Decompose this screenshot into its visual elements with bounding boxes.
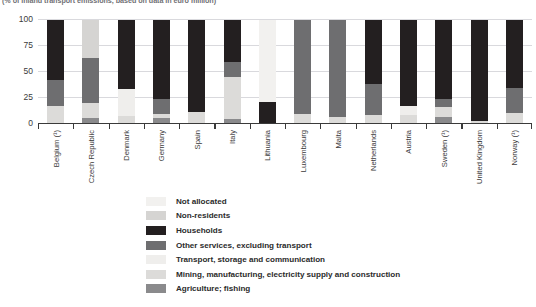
x-axis-tick bbox=[285, 124, 286, 129]
bar-segment bbox=[82, 20, 99, 58]
bar-segment bbox=[118, 20, 135, 89]
x-axis-tick bbox=[214, 124, 215, 129]
stacked-bar[interactable] bbox=[435, 20, 452, 124]
stacked-bar[interactable] bbox=[506, 20, 523, 124]
bar-segment bbox=[153, 20, 170, 99]
legend-item[interactable]: Transport, storage and communication bbox=[146, 252, 526, 267]
x-label-slot: Malta bbox=[320, 130, 355, 188]
bar-slot bbox=[356, 20, 391, 124]
x-axis-category-label: Spain bbox=[192, 130, 201, 149]
legend-label: Transport, storage and communication bbox=[176, 255, 325, 264]
stacked-bar[interactable] bbox=[188, 20, 205, 124]
legend-item[interactable]: Mining, manufacturing, electricity suppl… bbox=[146, 267, 526, 282]
stacked-bar[interactable] bbox=[365, 20, 382, 124]
x-axis-tick bbox=[426, 124, 427, 129]
chart-subtitle: (% of inland transport emissions, based … bbox=[2, 0, 216, 5]
bar-segment bbox=[294, 20, 311, 114]
x-axis-category-label: United Kingdom bbox=[475, 130, 484, 184]
legend-item[interactable]: Agriculture; fishing bbox=[146, 282, 526, 297]
bar-slot bbox=[461, 20, 496, 124]
stacked-bar[interactable] bbox=[82, 20, 99, 124]
x-axis-tick bbox=[531, 124, 532, 129]
bar-segment bbox=[365, 84, 382, 114]
x-axis-category-label: Malta bbox=[333, 130, 342, 149]
x-label-slot: Spain bbox=[179, 130, 214, 188]
bar-segment bbox=[153, 114, 170, 118]
stacked-bar[interactable] bbox=[224, 20, 241, 124]
x-tick-slot bbox=[214, 124, 249, 129]
stacked-bar[interactable] bbox=[259, 20, 276, 124]
legend-label: Not allocated bbox=[176, 197, 227, 206]
x-label-slot: United Kingdom bbox=[461, 130, 496, 188]
x-label-slot: Sweden (¹) bbox=[426, 130, 461, 188]
bar-group bbox=[38, 20, 532, 124]
bar-segment bbox=[82, 103, 99, 118]
plot-area: 0255075100 bbox=[38, 20, 532, 124]
legend-label: Other services, excluding transport bbox=[176, 241, 312, 250]
x-label-slot: Luxembourg bbox=[285, 130, 320, 188]
y-axis-tick-label: 50 bbox=[24, 66, 33, 76]
x-axis-tick bbox=[179, 124, 180, 129]
x-axis-tick bbox=[356, 124, 357, 129]
x-tick-slot bbox=[109, 124, 144, 129]
x-axis-category-label: Denmark bbox=[122, 130, 131, 161]
bar-segment bbox=[435, 107, 452, 116]
bar-segment bbox=[224, 62, 241, 78]
x-label-slot: Lithuania bbox=[250, 130, 285, 188]
stacked-bar[interactable] bbox=[471, 20, 488, 124]
y-axis-tick-label: 0 bbox=[28, 118, 33, 128]
x-axis-tick bbox=[38, 124, 39, 129]
bar-slot bbox=[144, 20, 179, 124]
x-axis-tick bbox=[250, 124, 251, 129]
x-axis-category-label: Belgium (¹) bbox=[51, 130, 60, 167]
bar-segment bbox=[435, 99, 452, 107]
legend-swatch bbox=[146, 255, 166, 264]
x-axis-category-label: Lithuania bbox=[263, 130, 272, 161]
x-axis-category-label: Netherlands bbox=[369, 130, 378, 171]
x-axis-tick bbox=[320, 124, 321, 129]
bar-segment bbox=[506, 20, 523, 88]
chart-legend: Not allocatedNon-residentsHouseholdsOthe… bbox=[146, 194, 526, 296]
legend-item[interactable]: Other services, excluding transport bbox=[146, 238, 526, 253]
bar-slot bbox=[426, 20, 461, 124]
bar-segment bbox=[118, 89, 135, 116]
x-axis-tick bbox=[391, 124, 392, 129]
bar-segment bbox=[47, 20, 64, 80]
legend-label: Households bbox=[176, 226, 222, 235]
bar-segment bbox=[365, 20, 382, 84]
x-axis-tick bbox=[109, 124, 110, 129]
x-axis-tick bbox=[144, 124, 145, 129]
x-tick-slot bbox=[73, 124, 108, 129]
bar-segment bbox=[47, 80, 64, 106]
x-label-slot: Norway (¹) bbox=[497, 130, 532, 188]
x-tick-slot bbox=[461, 124, 496, 129]
bar-slot bbox=[250, 20, 285, 124]
stacked-bar[interactable] bbox=[294, 20, 311, 124]
x-axis-labels: Belgium (¹)Czech RepublicDenmarkGermanyS… bbox=[38, 130, 532, 188]
x-tick-slot bbox=[285, 124, 320, 129]
legend-swatch bbox=[146, 241, 166, 250]
stacked-bar[interactable] bbox=[47, 20, 64, 124]
stacked-bar[interactable] bbox=[400, 20, 417, 124]
y-axis-tick-label: 25 bbox=[24, 92, 33, 102]
y-axis-tick-label: 100 bbox=[19, 14, 33, 24]
bar-segment bbox=[224, 77, 241, 119]
bar-slot bbox=[38, 20, 73, 124]
stacked-bar[interactable] bbox=[118, 20, 135, 124]
x-axis-category-label: Luxembourg bbox=[298, 130, 307, 172]
x-axis-category-label: Sweden (¹) bbox=[439, 130, 448, 167]
stacked-bar[interactable] bbox=[329, 20, 346, 124]
bar-slot bbox=[73, 20, 108, 124]
legend-item[interactable]: Not allocated bbox=[146, 194, 526, 209]
legend-item[interactable]: Households bbox=[146, 223, 526, 238]
legend-label: Non-residents bbox=[176, 211, 230, 220]
bar-segment bbox=[224, 20, 241, 62]
bar-slot bbox=[391, 20, 426, 124]
legend-swatch bbox=[146, 211, 166, 220]
legend-label: Agriculture; fishing bbox=[176, 284, 250, 293]
x-tick-slot bbox=[391, 124, 426, 129]
x-axis-category-label: Germany bbox=[157, 130, 166, 161]
stacked-bar[interactable] bbox=[153, 20, 170, 124]
x-tick-slot bbox=[144, 124, 179, 129]
legend-item[interactable]: Non-residents bbox=[146, 209, 526, 224]
